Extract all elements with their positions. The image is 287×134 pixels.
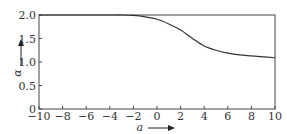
x-tick-label: 8 [248,110,255,123]
svg-text:α: α [11,69,24,77]
x-tick-label: 0 [154,110,161,123]
y-tick-label: 0.5 [19,80,37,93]
x-tick-label: −6 [78,110,94,123]
plot-area [39,15,275,109]
x-tick-label: 10 [268,110,282,123]
x-tick-label: 6 [224,110,231,123]
y-axis: 00.51.01.52.0 [19,9,43,116]
y-tick-label: 0 [29,103,36,116]
y-tick-label: 2.0 [19,9,37,22]
data-line [39,15,275,58]
x-tick-label: 2 [177,110,184,123]
line-chart: −10−8−6−4−20246810 00.51.01.52.0 a α [0,0,287,134]
x-tick-label: −8 [54,110,70,123]
plot-frame [39,15,275,109]
x-tick-label: 4 [201,110,208,123]
x-tick-label: −4 [102,110,118,123]
arrow-head-right-icon [168,125,175,131]
svg-text:a: a [136,121,143,134]
